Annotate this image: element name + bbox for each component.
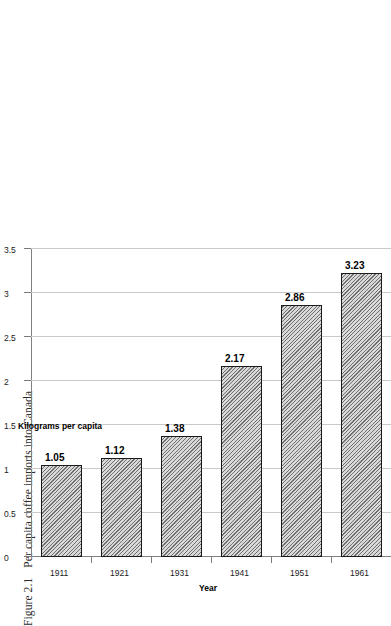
category-axis-tick-label: 1941: [230, 568, 249, 578]
bar-data-label: 1.38: [165, 423, 184, 434]
value-axis-tick: [24, 512, 31, 513]
value-axis-tick-label: 0: [4, 553, 9, 563]
value-axis-tick-label: 0.5: [4, 509, 16, 519]
value-axis-title: Kilograms per capita: [18, 421, 102, 431]
gridline: [31, 292, 391, 293]
bar-data-label: 3.23: [345, 260, 364, 271]
category-axis-tick: [91, 557, 92, 563]
bar[interactable]: [41, 465, 82, 557]
figure-number: Figure 2.1: [22, 578, 34, 626]
bar-data-label: 1.12: [105, 445, 124, 456]
bar-chart: 00.511.522.533.5 1.051.121.382.172.863.2…: [0, 0, 391, 557]
gridline: [31, 248, 391, 249]
gridline: [31, 512, 391, 513]
value-axis-tick: [24, 292, 31, 293]
value-axis-line: [31, 249, 32, 557]
value-axis-tick-label: 2.5: [4, 333, 16, 343]
value-axis-tick-label: 2: [4, 377, 9, 387]
category-axis-tick-label: 1921: [110, 568, 129, 578]
value-axis-tick: [24, 248, 31, 249]
value-axis-tick-label: 3: [4, 289, 9, 299]
bar[interactable]: [161, 436, 202, 557]
bar-data-label: 2.17: [225, 353, 244, 364]
value-axis-tick: [24, 468, 31, 469]
value-axis-tick: [24, 336, 31, 337]
category-axis-tick: [211, 557, 212, 563]
category-axis-tick: [151, 557, 152, 563]
category-axis-tick-label: 1931: [170, 568, 189, 578]
category-axis-tick-label: 1961: [350, 568, 369, 578]
category-axis-tick-label: 1911: [50, 568, 68, 578]
bar-data-label: 2.86: [285, 292, 304, 303]
category-axis-tick-label: 1951: [290, 568, 309, 578]
bar[interactable]: [281, 305, 322, 557]
bar[interactable]: [341, 273, 382, 557]
value-axis-tick: [24, 380, 31, 381]
category-axis-tick: [271, 557, 272, 563]
bar-data-label: 1.05: [45, 452, 64, 463]
bar[interactable]: [221, 366, 262, 557]
value-axis-tick: [24, 556, 31, 557]
gridline: [31, 336, 391, 337]
category-axis-tick: [331, 557, 332, 563]
gridline: [31, 468, 391, 469]
value-axis-tick-label: 1: [4, 465, 9, 475]
category-axis-title: Year: [199, 583, 217, 593]
value-axis-tick-label: 3.5: [4, 245, 16, 255]
gridline: [31, 380, 391, 381]
bar[interactable]: [101, 458, 142, 557]
value-axis-tick-label: 1.5: [4, 421, 16, 431]
